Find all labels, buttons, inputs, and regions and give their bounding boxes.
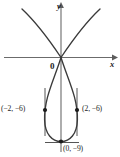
right-point-dot	[75, 108, 79, 112]
upper-left-branch	[22, 9, 61, 58]
x-axis-label: x	[110, 60, 114, 69]
left-point-label: (−2, −6)	[1, 105, 25, 113]
math-figure: y x 0 (−2, −6) (2, −6) (0, −9)	[0, 0, 120, 157]
left-point-dot	[43, 108, 47, 112]
origin-label: 0	[50, 62, 55, 71]
y-axis-label: y	[57, 2, 61, 11]
bottom-point-label: (0, −9)	[63, 145, 83, 153]
graph-canvas	[0, 0, 120, 157]
upper-right-branch	[61, 9, 100, 58]
bottom-point-dot	[59, 139, 63, 143]
right-point-label: (2, −6)	[82, 105, 102, 113]
